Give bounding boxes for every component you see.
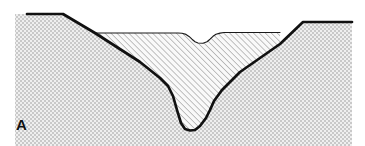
valley-cross-section-diagram — [0, 0, 365, 146]
figure-panel-a: A — [0, 0, 365, 146]
panel-label-a: A — [16, 117, 27, 132]
